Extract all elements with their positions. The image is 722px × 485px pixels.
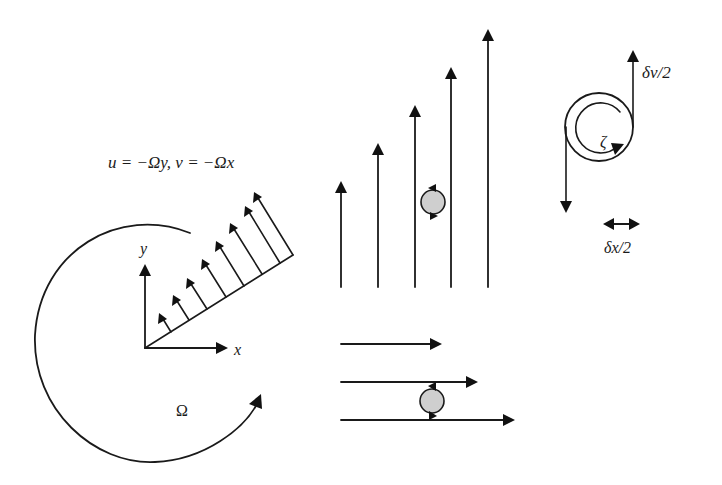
vertical-shear-arrows (341, 40, 488, 287)
velocity-label: δv/2 (642, 63, 671, 82)
diagram-canvas: u = −Ωy, v = −Ωx y x Ω (0, 0, 722, 485)
x-axis-label: x (233, 341, 241, 358)
equation-label: u = −Ωy, v = −Ωx (108, 153, 235, 172)
vorticity-diagram: u = −Ωy, v = −Ωx y x Ω (0, 0, 722, 485)
distance-label: δx/2 (604, 239, 631, 256)
rotation-arc (35, 225, 258, 462)
horizontal-shear-vortex-icon (420, 382, 444, 420)
velocity-arrows (163, 198, 293, 332)
rotation-label: Ω (176, 402, 188, 419)
x-axis-arrowhead-icon (216, 342, 228, 354)
velocity-up-arrowhead-icon (627, 50, 639, 62)
velocity-arrowheads-icon (158, 192, 262, 324)
vertical-shear-panel (335, 29, 494, 287)
vorticity-label: ζ (600, 133, 608, 151)
vortex-element-panel: δv/2 ζ δx/2 (560, 50, 671, 256)
distance-arrowhead-right-icon (629, 218, 640, 230)
y-axis-label: y (138, 240, 148, 258)
radial-line (145, 255, 293, 348)
y-axis-arrowhead-icon (139, 264, 151, 276)
velocity-down-arrowhead-icon (560, 201, 572, 213)
distance-arrowhead-left-icon (603, 218, 614, 230)
solid-body-rotation-panel: u = −Ωy, v = −Ωx y x Ω (35, 153, 293, 462)
vertical-shear-vortex-icon (421, 184, 445, 220)
horizontal-shear-panel (341, 338, 515, 426)
